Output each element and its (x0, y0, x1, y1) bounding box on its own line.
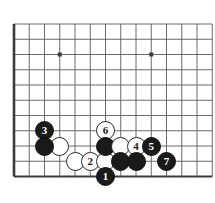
stone-move-number: 6 (103, 125, 109, 136)
go-board-diagram: 3264571 (0, 0, 215, 203)
stone-black-move-1: 1 (96, 167, 115, 186)
stone-move-number: 3 (42, 125, 48, 136)
stone-black (35, 137, 54, 156)
stone-black (127, 152, 146, 171)
stone-move-number: 1 (103, 171, 109, 182)
star-point (58, 53, 62, 57)
stone-move-number: 7 (164, 155, 170, 166)
stone-black-move-5: 5 (142, 137, 161, 156)
stone-black-move-7: 7 (157, 152, 176, 171)
stone-move-number: 5 (149, 140, 155, 151)
stone-move-number: 4 (133, 140, 139, 151)
stone-move-number: 2 (88, 155, 94, 166)
star-point (149, 53, 153, 57)
